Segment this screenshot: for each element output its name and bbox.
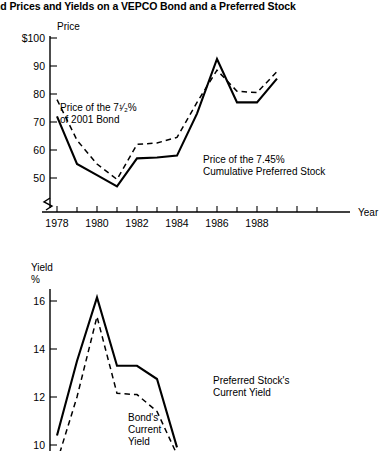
- price-stock-annotation: Price of the 7.45% Cumulative Preferred …: [203, 154, 326, 177]
- price-xtick-1982: 1982: [125, 217, 149, 229]
- price-ytick-80: 80: [33, 88, 45, 100]
- svg-text:Price of the 7¹⁄₂%: Price of the 7¹⁄₂%: [60, 102, 137, 113]
- svg-text:of 2001 Bond: of 2001 Bond: [60, 114, 120, 125]
- price-x-tick-labels: 1978 1980 1982 1984 1986 1988: [45, 217, 269, 229]
- price-chart: Price $100 90 80 70 60 50: [0, 16, 392, 248]
- yield-y-ticks: [50, 301, 57, 445]
- figure-title: nd Prices and Yields on a VEPCO Bond and…: [0, 0, 296, 12]
- yield-bond-annotation: Bond's Current Yield: [128, 412, 162, 447]
- price-xtick-1988: 1988: [245, 217, 269, 229]
- figure-page: nd Prices and Yields on a VEPCO Bond and…: [0, 0, 392, 451]
- price-xtick-1986: 1986: [205, 217, 229, 229]
- price-y-tick-labels: $100 90 80 70 60 50: [22, 32, 46, 184]
- price-ytick-50: 50: [33, 172, 45, 184]
- price-ytick-100: $100: [22, 32, 46, 44]
- price-ytick-60: 60: [33, 144, 45, 156]
- yield-chart: Yield % 16 14 12 10 Preferred Stock's: [0, 256, 392, 451]
- yield-y-tick-labels: 16 14 12 10: [33, 295, 45, 451]
- price-xtick-1984: 1984: [165, 217, 189, 229]
- price-xtick-1978: 1978: [45, 217, 69, 229]
- price-x-axis-title: Year: [358, 207, 379, 218]
- price-ytick-70: 70: [33, 116, 45, 128]
- yield-preferred-annotation: Preferred Stock's Current Yield: [213, 375, 289, 398]
- yield-ytick-14: 14: [33, 343, 45, 355]
- price-ytick-90: 90: [33, 60, 45, 72]
- yield-ytick-16: 16: [33, 295, 45, 307]
- svg-text:Yield: Yield: [31, 262, 53, 273]
- svg-text:Price of the 7.45%: Price of the 7.45%: [203, 154, 285, 165]
- price-y-axis-title: Price: [57, 21, 80, 32]
- yield-ytick-10: 10: [33, 439, 45, 451]
- yield-y-axis-title: Yield %: [31, 262, 53, 285]
- price-xtick-1980: 1980: [85, 217, 109, 229]
- price-x-ticks: [57, 206, 317, 212]
- price-y-ticks: [50, 38, 57, 178]
- yield-ytick-12: 12: [33, 391, 45, 403]
- svg-text:Current: Current: [128, 424, 162, 435]
- price-axis-break-symbol: [44, 198, 52, 210]
- svg-text:Bond's: Bond's: [128, 412, 158, 423]
- svg-text:Current Yield: Current Yield: [213, 387, 271, 398]
- svg-text:%: %: [31, 274, 40, 285]
- svg-text:Yield: Yield: [128, 436, 150, 447]
- svg-text:Preferred Stock's: Preferred Stock's: [213, 375, 289, 386]
- svg-text:Cumulative Preferred Stock: Cumulative Preferred Stock: [203, 166, 326, 177]
- price-bond-annotation: Price of the 7¹⁄₂% of 2001 Bond: [60, 102, 137, 125]
